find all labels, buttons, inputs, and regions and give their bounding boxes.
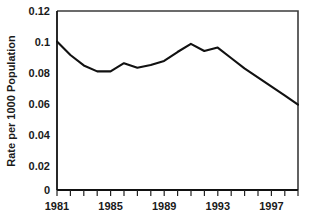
y-tick-label: 0.06: [29, 98, 50, 110]
y-tick-label: 0.1: [35, 36, 50, 48]
y-axis-tick-labels: 0.12 0.1 0.08 0.06 0.04 0.02 0: [29, 5, 51, 196]
y-tick-label: 0.02: [29, 160, 50, 172]
y-tick-label: 0.08: [29, 67, 50, 79]
x-axis-tick-labels: 1981 1985 1989 1993 1997: [45, 200, 284, 212]
y-axis-title: Rate per 1000 Population: [5, 35, 17, 167]
x-tick-label: 1989: [152, 200, 176, 212]
line-chart: 0.12 0.1 0.08 0.06 0.04 0.02 0 Rate per …: [0, 0, 310, 224]
y-tick-label: 0.12: [29, 5, 50, 17]
x-tick-label: 1997: [259, 200, 283, 212]
x-tick-label: 1993: [206, 200, 230, 212]
y-tick-label: 0: [44, 184, 50, 196]
x-tick-label: 1985: [98, 200, 122, 212]
plot-frame: [57, 11, 298, 190]
data-series-line: [57, 42, 298, 105]
y-tick-label: 0.04: [29, 129, 51, 141]
x-tick-label: 1981: [45, 200, 69, 212]
chart-container: 0.12 0.1 0.08 0.06 0.04 0.02 0 Rate per …: [0, 0, 310, 224]
